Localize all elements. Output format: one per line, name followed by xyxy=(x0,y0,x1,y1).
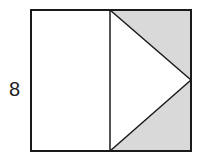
side-length-label: 8 xyxy=(9,78,20,100)
diagram-canvas: 8 xyxy=(0,0,200,156)
